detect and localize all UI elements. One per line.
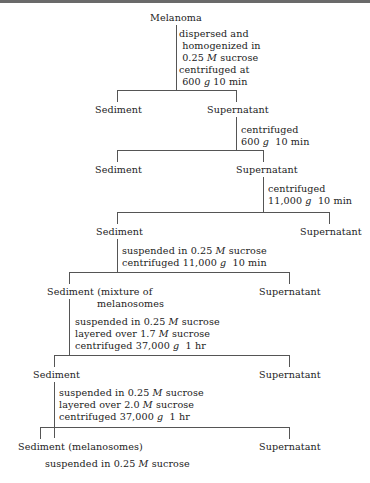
branch-line [117, 150, 263, 151]
connector-line [263, 150, 264, 162]
node-sediment-1: Sediment [95, 104, 142, 116]
connector-line [289, 272, 290, 284]
node-supernatant-5: Supernatant [259, 369, 321, 381]
step6-line2: layered over 2.0 M sucrose [59, 399, 194, 411]
connector-line [263, 177, 264, 213]
branch-line [117, 212, 329, 213]
step1-line3: 0.25 M sucrose [179, 52, 258, 64]
node-supernatant-6: Supernatant [259, 441, 321, 453]
branch-line [69, 272, 289, 273]
step2-line2: 600 g 10 min [241, 136, 310, 148]
connector-line [69, 272, 70, 284]
node-supernatant-1: Supernatant [207, 104, 269, 116]
connector-line [54, 382, 55, 438]
top-border [0, 0, 370, 3]
node-sediment-4-cont: melanosomes [97, 298, 164, 310]
node-sediment-6: Sediment (melanosomes) [18, 441, 143, 453]
step5-line3: centrifuged 37,000 g 1 hr [75, 340, 206, 352]
connector-line [289, 355, 290, 367]
node-sediment-3: Sediment [96, 226, 143, 238]
connector-line [69, 299, 70, 355]
connector-line [117, 150, 118, 162]
node-sediment-4: Sediment (mixture of [47, 286, 152, 298]
branch-line [40, 427, 289, 428]
node-supernatant-2: Supernatant [236, 164, 298, 176]
final-step: suspended in 0.25 M sucrose [45, 458, 190, 470]
step3-line1: centrifuged [268, 183, 326, 195]
step3-line2: 11,000 g 10 min [268, 195, 352, 207]
step6-line3: centrifuged 37,000 g 1 hr [59, 411, 190, 423]
connector-line [289, 427, 290, 439]
connector-line [117, 90, 118, 102]
node-sediment-5: Sediment [33, 369, 80, 381]
branch-line [54, 355, 289, 356]
connector-line [236, 117, 237, 150]
connector-line [54, 355, 55, 367]
step5-line1: suspended in 0.25 M sucrose [75, 316, 220, 328]
step5-line2: layered over 1.7 M sucrose [75, 328, 210, 340]
step6-line1: suspended in 0.25 M sucrose [59, 387, 204, 399]
connector-line [117, 212, 118, 224]
connector-line [329, 212, 330, 224]
node-sediment-2: Sediment [95, 164, 142, 176]
step4-line2: centrifuged 11,000 g 10 min [122, 257, 267, 269]
step1-line4: centrifuged at [179, 64, 249, 76]
step1-line1: dispersed and [179, 28, 249, 40]
step1-line5: 600 g 10 min [179, 76, 248, 88]
step2-line1: centrifuged [241, 124, 299, 136]
step4-line1: suspended in 0.25 M sucrose [122, 245, 267, 257]
branch-line [117, 90, 236, 91]
connector-line [176, 25, 177, 90]
step1-line2: homogenized in [179, 40, 261, 52]
connector-line [117, 239, 118, 272]
connector-line [40, 427, 41, 439]
node-melanoma: Melanoma [150, 12, 202, 24]
node-supernatant-4: Supernatant [259, 286, 321, 298]
connector-line [236, 90, 237, 102]
node-supernatant-3: Supernatant [300, 226, 362, 238]
